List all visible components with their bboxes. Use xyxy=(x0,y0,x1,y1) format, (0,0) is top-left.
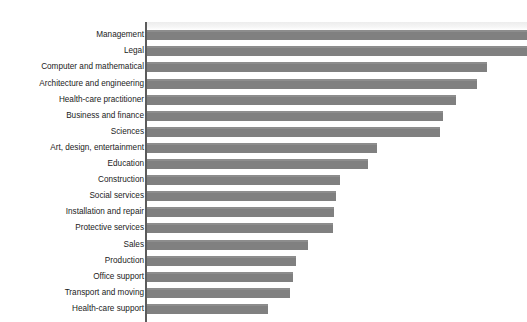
bar-row: Health-care practitioner xyxy=(0,92,527,108)
bar-category-label: Legal xyxy=(124,43,144,59)
horizontal-bar-chart: · · · · · · ManagementLegalComputer and … xyxy=(0,0,527,322)
bar-row: Social services xyxy=(0,188,527,204)
bar-row: Management xyxy=(0,27,527,43)
bar-category-label: Transport and moving xyxy=(65,285,144,301)
bar-row: Construction xyxy=(0,172,527,188)
bar-category-label: Sciences xyxy=(111,124,144,140)
bar-rect xyxy=(147,223,333,233)
bar-rect xyxy=(147,207,334,217)
bar-row: Education xyxy=(0,156,527,172)
bar-category-label: Health-care practitioner xyxy=(59,92,144,108)
bars-layer: ManagementLegalComputer and mathematical… xyxy=(0,0,527,322)
bar-category-label: Office support xyxy=(93,269,144,285)
bar-rect xyxy=(147,30,527,40)
bar-rect xyxy=(147,95,456,105)
bar-category-label: Protective services xyxy=(75,220,144,236)
bar-rect xyxy=(147,256,296,266)
bar-row: Computer and mathematical xyxy=(0,59,527,75)
plot-area: ManagementLegalComputer and mathematical… xyxy=(0,0,527,322)
bar-row: Business and finance xyxy=(0,108,527,124)
bar-rect xyxy=(147,79,477,89)
bar-category-label: Computer and mathematical xyxy=(41,59,144,75)
bar-category-label: Architecture and engineering xyxy=(39,76,144,92)
bar-category-label: Installation and repair xyxy=(66,204,144,220)
bar-row: Legal xyxy=(0,43,527,59)
bar-category-label: Education xyxy=(108,156,144,172)
bar-rect xyxy=(147,272,293,282)
bar-category-label: Business and finance xyxy=(66,108,144,124)
bar-rect xyxy=(147,46,527,56)
bar-category-label: Production xyxy=(105,253,144,269)
bar-category-label: Management xyxy=(96,27,144,43)
bar-row: Art, design, entertainment xyxy=(0,140,527,156)
bar-rect xyxy=(147,159,368,169)
bar-row: Office support xyxy=(0,269,527,285)
bar-rect xyxy=(147,175,340,185)
bar-rect xyxy=(147,127,440,137)
bar-rect xyxy=(147,304,268,314)
bar-row: Production xyxy=(0,253,527,269)
bar-row: Transport and moving xyxy=(0,285,527,301)
bar-rect xyxy=(147,111,443,121)
bar-category-label: Health-care support xyxy=(72,301,144,317)
bar-rect xyxy=(147,240,308,250)
bar-category-label: Sales xyxy=(124,237,144,253)
bar-rect xyxy=(147,288,290,298)
bar-row: Installation and repair xyxy=(0,204,527,220)
bar-category-label: Art, design, entertainment xyxy=(50,140,144,156)
bar-row: Health-care support xyxy=(0,301,527,317)
bar-category-label: Social services xyxy=(89,188,144,204)
bar-row: Protective services xyxy=(0,220,527,236)
bar-category-label: Construction xyxy=(98,172,144,188)
bar-rect xyxy=(147,143,377,153)
bar-row: Sciences xyxy=(0,124,527,140)
bar-row: Architecture and engineering xyxy=(0,76,527,92)
bar-rect xyxy=(147,191,336,201)
bar-rect xyxy=(147,62,487,72)
bar-row: Sales xyxy=(0,237,527,253)
